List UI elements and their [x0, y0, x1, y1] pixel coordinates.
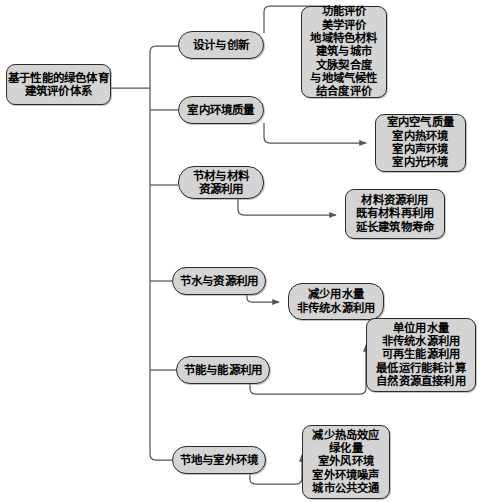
branch-label-land: 节地与室外环境	[180, 454, 258, 467]
leaf-box-energy-items[interactable]: 单位用水量 非传统水源利用 可再生能源利用 最低运行能耗计算 自然资源直接利用	[366, 318, 476, 392]
leaf-box-indoor-items[interactable]: 室内空气质量 室内热环境 室内声环境 室内光环境	[375, 114, 466, 172]
diagram-canvas: 基于性能的绿色体育 建筑评价体系 设计与创新 功能评价 美学评价 地域特色材料 …	[0, 0, 487, 502]
branch-label-energy: 节能与能源利用	[184, 364, 262, 377]
leaf-box-land-items[interactable]: 减少热岛效应 绿化量 室外风环境 室外环境噪声 城市公共交通	[302, 425, 390, 499]
leaf-label-energy-items: 单位用水量 非传统水源利用 可再生能源利用 最低运行能耗计算 自然资源直接利用	[376, 322, 466, 389]
wire-indoor-leaf	[264, 123, 366, 143]
leaf-label-indoor-items: 室内空气质量 室内热环境 室内声环境 室内光环境	[387, 116, 454, 169]
branch-node-design[interactable]: 设计与创新	[178, 31, 264, 59]
leaf-label-land-items: 减少热岛效应 绿化量 室外风环境 室外环境噪声 城市公共交通	[312, 429, 379, 496]
leaf-box-material-items[interactable]: 材料资源利用 既有材料再利用 延长建筑物寿命	[345, 189, 445, 239]
wire-water-leaf	[247, 294, 279, 302]
branch-label-indoor: 室内环境质量	[187, 104, 254, 117]
leaf-box-water-items[interactable]: 减少用水量 非传统水源利用	[288, 283, 384, 320]
root-node[interactable]: 基于性能的绿色体育 建筑评价体系	[6, 64, 111, 105]
wire-trunk-design	[150, 46, 178, 52]
wire-trunk-land	[150, 454, 172, 460]
branch-label-water: 节水与资源利用	[180, 275, 258, 288]
branch-node-land[interactable]: 节地与室外环境	[172, 446, 266, 474]
branch-node-material[interactable]: 节材与材料 资源利用	[178, 166, 264, 199]
wire-material-leaf	[238, 198, 336, 215]
leaf-label-design-items: 功能评价 美学评价 地域特色材料 建筑与城市 文脉契合度 与地域气候性 结合度评…	[310, 5, 377, 98]
branch-label-material: 节材与材料 资源利用	[193, 170, 249, 196]
branch-node-water[interactable]: 节水与资源利用	[172, 267, 266, 295]
root-node-label: 基于性能的绿色体育 建筑评价体系	[8, 72, 109, 98]
branch-node-indoor[interactable]: 室内环境质量	[178, 96, 264, 124]
leaf-box-design-items[interactable]: 功能评价 美学评价 地域特色材料 建筑与城市 文脉契合度 与地域气候性 结合度评…	[301, 6, 387, 98]
leaf-label-water-items: 减少用水量 非传统水源利用	[297, 288, 375, 315]
leaf-label-material-items: 材料资源利用 既有材料再利用 延长建筑物寿命	[356, 194, 434, 234]
branch-label-design: 设计与创新	[193, 39, 249, 52]
branch-node-energy[interactable]: 节能与能源利用	[176, 356, 270, 384]
